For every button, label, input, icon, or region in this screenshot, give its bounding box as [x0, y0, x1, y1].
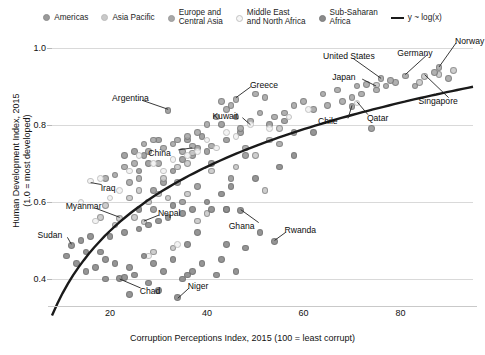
y-tick-label: 0.8: [33, 120, 46, 130]
trendline-and-leader-lines: [52, 36, 473, 306]
annotation-label: Iraq: [101, 184, 116, 193]
leader-line: [405, 55, 427, 75]
y-tick-label: 1.0: [33, 43, 46, 53]
x-axis-title: Corruption Perceptions Index, 2015 (100 …: [0, 333, 485, 343]
circle-marker-icon: [101, 14, 108, 21]
annotation-label: Ghana: [229, 222, 255, 231]
leader-line: [353, 58, 381, 78]
x-tick-label: 20: [105, 308, 115, 318]
annotation-label: Rwanda: [285, 226, 317, 235]
x-tick-label: 60: [299, 308, 309, 318]
circle-marker-icon: [43, 14, 50, 21]
y-axis-title: Human Development Index, 2015 (1.0 = mos…: [11, 53, 32, 268]
x-tick-label: 80: [395, 308, 405, 318]
leader-line: [242, 118, 250, 125]
leader-line: [236, 87, 251, 98]
scatter-plot-figure: Americas Asia Pacific Europe and Central…: [0, 0, 485, 355]
annotation-label: China: [148, 149, 170, 158]
legend-label: Asia Pacific: [112, 14, 154, 23]
leader-line: [67, 237, 71, 244]
annotation-label: Niger: [188, 282, 209, 291]
y-axis-title-line-2: (1.0 = most developed): [22, 114, 32, 206]
y-tick-label: 0.4: [33, 274, 46, 284]
annotation-label: Chile: [318, 117, 338, 126]
annotation-label: Singapore: [419, 97, 458, 106]
circle-marker-icon: [236, 15, 243, 22]
annotation-label: Norway: [455, 37, 484, 46]
annotation-label: Japan: [332, 73, 355, 82]
legend-label: Americas: [54, 14, 88, 23]
legend-item-americas[interactable]: Americas: [43, 14, 88, 23]
legend-item-asia-pacific[interactable]: Asia Pacific: [101, 14, 154, 23]
leader-line: [178, 148, 192, 150]
x-tick-label: 40: [202, 308, 212, 318]
annotation-label: United States: [323, 52, 375, 61]
legend-label: Middle East and North Africa: [247, 9, 306, 27]
annotation-label: Sudan: [37, 231, 62, 240]
leader-line: [362, 79, 376, 86]
circle-marker-icon: [319, 15, 326, 22]
leader-line: [120, 279, 141, 288]
leader-line: [439, 43, 456, 67]
x-axis-line: [48, 306, 477, 307]
legend-label: y ~ log(x): [408, 14, 442, 23]
annotation-label: Kuwait: [212, 112, 238, 121]
legend-item-middle-east-north-africa[interactable]: Middle East and North Africa: [236, 9, 306, 27]
y-tick-label: 0.6: [33, 197, 46, 207]
legend-item-europe-central-asia[interactable]: Europe and Central Asia: [168, 9, 223, 27]
legend: Americas Asia Pacific Europe and Central…: [0, 4, 485, 32]
plot-area: 0.40.60.81.0 20406080 NorwayUnited State…: [52, 36, 473, 306]
circle-marker-icon: [168, 15, 175, 22]
y-axis-title-line-1: Human Development Index, 2015: [11, 94, 21, 228]
line-swatch-icon: [391, 17, 404, 20]
legend-item-trendline[interactable]: y ~ log(x): [391, 14, 442, 23]
annotation-label: Germany: [397, 49, 432, 58]
annotation-label: Chad: [140, 287, 161, 296]
annotation-label: Argentina: [112, 94, 149, 103]
annotation-label: Myanmar: [66, 202, 102, 211]
annotation-label: Qatar: [367, 114, 389, 123]
annotation-label: Nepal: [158, 209, 180, 218]
annotation-label: Greece: [250, 81, 278, 90]
leader-line: [144, 215, 159, 221]
legend-item-sub-saharan-africa[interactable]: Sub-Saharan Africa: [319, 9, 378, 27]
legend-label: Europe and Central Asia: [179, 9, 223, 27]
trendline: [52, 87, 473, 316]
legend-label: Sub-Saharan Africa: [330, 9, 378, 27]
